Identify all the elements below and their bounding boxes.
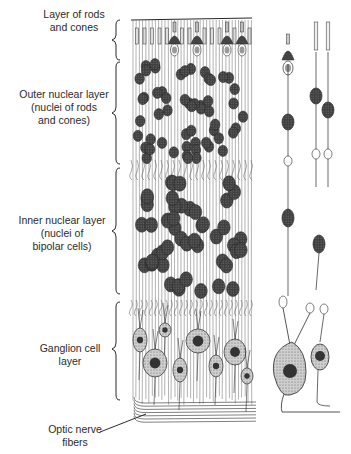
ganglion-nucleus	[193, 336, 204, 347]
cone-nucleus	[172, 47, 177, 54]
cone-nucleus	[240, 47, 245, 54]
outer-nucleus	[153, 87, 163, 98]
rod-segment	[248, 28, 251, 44]
cone-nucleus	[225, 47, 230, 54]
synapse-zone-line	[204, 300, 207, 316]
inner-nucleus	[161, 240, 174, 255]
cone-outer-segment	[196, 22, 199, 32]
synapse-zone-line	[160, 160, 163, 180]
bipolar-nucleus	[282, 209, 294, 227]
outer-nucleus	[201, 137, 211, 148]
synapse-knob	[320, 304, 328, 314]
cone-nucleus	[195, 47, 200, 54]
retina-diagram	[0, 0, 351, 454]
outer-nucleus	[229, 98, 239, 109]
outer-nucleus	[187, 101, 197, 112]
nucleus	[310, 88, 322, 104]
ganglion-nucleus	[283, 364, 297, 378]
inner-nucleus	[141, 189, 154, 204]
outer-nucleus	[214, 133, 224, 144]
rod-segment	[218, 28, 221, 44]
ganglion-nucleus	[137, 337, 143, 343]
rod-segment	[314, 22, 318, 50]
synapse-zone-line	[244, 300, 247, 316]
outer-nucleus	[230, 84, 240, 95]
synapse-zone-line	[154, 160, 157, 180]
synapse-zone-line	[174, 300, 177, 316]
ganglion-nucleus	[213, 363, 219, 369]
outer-nucleus	[203, 96, 213, 107]
synapse-zone-line	[139, 300, 142, 316]
cone-outer-segment	[287, 34, 290, 44]
rod-segment	[233, 28, 236, 44]
synapse-zone-line	[238, 160, 241, 180]
inner-nucleus	[235, 243, 248, 258]
inner-nucleus	[220, 258, 233, 273]
cone-outer-segment	[173, 22, 176, 32]
synapse-zone-line	[220, 160, 223, 180]
optic-nerve-fiber	[134, 397, 256, 403]
nucleus	[322, 102, 334, 118]
rod-segment	[151, 28, 154, 44]
rod-segment	[203, 28, 206, 44]
rod-segment	[166, 28, 169, 44]
inner-nucleus	[189, 205, 202, 220]
outer-nucleus	[206, 74, 216, 85]
brace-rods-cones	[112, 20, 120, 60]
outer-nucleus	[135, 115, 145, 126]
inner-nucleus	[227, 282, 240, 297]
synapse-knob	[312, 149, 320, 159]
isolated-cell-chains	[273, 22, 340, 412]
cone-inner-segment	[282, 51, 294, 60]
bipolar-nucleus	[313, 235, 325, 253]
inner-nucleus	[180, 272, 193, 287]
outer-nucleus	[161, 93, 171, 104]
synapse-knob	[306, 303, 314, 313]
optic-nerve-pointer	[100, 414, 146, 432]
outer-nucleus	[186, 125, 196, 136]
brace-inner-nuclear	[112, 168, 120, 294]
inner-nucleus	[166, 191, 179, 206]
outer-nucleus	[133, 130, 143, 141]
outer-nucleus	[228, 127, 238, 138]
synapse-zone-line	[250, 160, 253, 180]
ganglion-nucleus	[315, 351, 325, 361]
synapse-zone-line	[229, 300, 232, 316]
inner-nucleus	[188, 233, 201, 248]
axon-line	[320, 314, 324, 342]
synapse-zone-line	[142, 160, 145, 180]
outer-nucleus	[141, 65, 151, 76]
inner-nucleus	[197, 217, 210, 232]
outer-nucleus	[169, 147, 179, 158]
synapse-zone-line	[154, 300, 157, 316]
outer-limiting-line	[131, 18, 252, 20]
axon-line	[316, 253, 319, 290]
rod-segment	[181, 28, 184, 44]
outer-nucleus	[238, 111, 248, 122]
inner-nucleus	[218, 220, 231, 235]
cone-inner-segment	[169, 36, 181, 44]
outer-nucleus	[192, 152, 202, 163]
outer-nucleus	[180, 66, 190, 77]
ganglion-nucleus	[162, 327, 167, 332]
outer-nucleus	[204, 106, 214, 117]
synapse-zone-line	[219, 300, 222, 316]
inner-nucleus	[212, 279, 225, 294]
ganglion-nucleus	[244, 373, 249, 378]
cone-inner-segment	[236, 36, 248, 44]
ganglion-dendrite	[283, 308, 310, 345]
synapse-zone-line	[149, 300, 152, 316]
outer-nucleus	[150, 58, 160, 69]
inner-nucleus	[195, 283, 208, 298]
ganglion-nucleus	[177, 367, 183, 373]
outer-nucleus	[218, 71, 228, 82]
synapse-zone-line	[169, 300, 172, 316]
brace-ganglion	[112, 302, 120, 400]
outer-nucleus	[183, 152, 193, 163]
inner-nucleus	[145, 217, 158, 232]
retina-section-column	[129, 18, 256, 422]
ganglion-nucleus	[150, 358, 161, 369]
inner-nucleus	[173, 176, 186, 191]
synapse-knob	[324, 149, 332, 159]
cone-outer-segment	[226, 22, 229, 32]
